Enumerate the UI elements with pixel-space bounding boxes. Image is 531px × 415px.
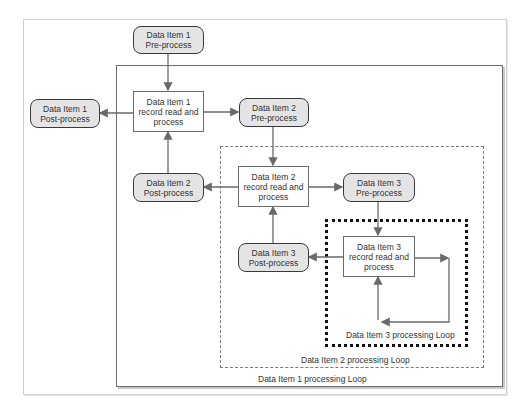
data-item-1-loop-label: Data Item 1 processing Loop <box>258 374 367 384</box>
connector-arrows <box>0 0 531 415</box>
data-item-2-loop-label: Data Item 2 processing Loop <box>301 355 410 365</box>
node-label: record read and <box>349 252 409 262</box>
node-label: Data Item 3 <box>252 248 296 258</box>
node-label: Data Item 3 <box>357 178 401 188</box>
node-label: Post-process <box>40 114 90 124</box>
node-label: process <box>259 192 289 202</box>
data-item-3-pre-process: Data Item 3 Pre-process <box>343 173 415 202</box>
node-label: Post-process <box>249 258 299 268</box>
data-item-1-post-process: Data Item 1 Post-process <box>30 99 100 128</box>
node-label: Data Item 1 <box>147 97 191 107</box>
data-item-2-record-process: Data Item 2 record read and process <box>238 166 309 207</box>
node-label: Post-process <box>144 188 194 198</box>
node-label: Pre-process <box>146 40 192 50</box>
data-item-1-record-process: Data Item 1 record read and process <box>133 91 204 132</box>
node-label: Data Item 2 <box>252 172 296 182</box>
data-item-2-pre-process: Data Item 2 Pre-process <box>239 98 309 127</box>
node-label: Data Item 3 <box>357 242 401 252</box>
data-item-2-post-process: Data Item 2 Post-process <box>133 173 204 202</box>
node-label: process <box>364 262 394 272</box>
data-item-1-pre-process: Data Item 1 Pre-process <box>133 26 204 54</box>
node-label: record read and <box>243 182 303 192</box>
node-label: Data Item 1 <box>147 30 191 40</box>
node-label: Data Item 2 <box>147 178 191 188</box>
node-label: Pre-process <box>251 113 297 123</box>
data-item-3-record-process: Data Item 3 record read and process <box>343 236 415 277</box>
node-label: Data Item 1 <box>43 104 87 114</box>
data-item-3-loop-label: Data Item 3 processing Loop <box>346 330 455 340</box>
node-label: Pre-process <box>356 188 402 198</box>
node-label: process <box>154 117 184 127</box>
node-label: record read and <box>138 107 198 117</box>
node-label: Data Item 2 <box>252 103 296 113</box>
data-item-3-post-process: Data Item 3 Post-process <box>238 243 309 272</box>
